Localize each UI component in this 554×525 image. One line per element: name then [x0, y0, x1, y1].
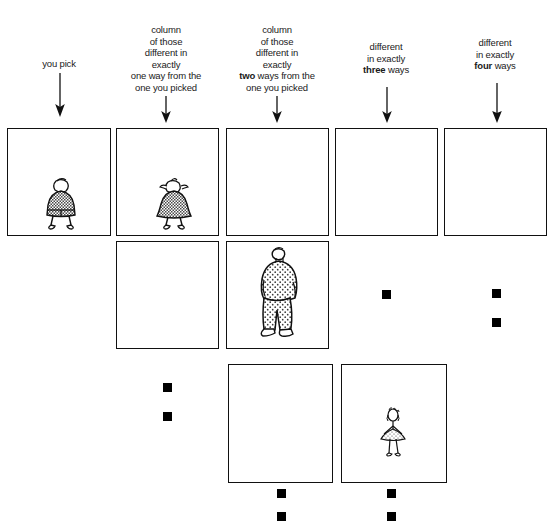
caption-line: one you picked [222, 82, 332, 94]
marker-square-r4c3-1 [277, 489, 286, 498]
grid-cell-r3c3[interactable] [228, 364, 333, 483]
caption-line: exactly [112, 59, 220, 71]
caption-line: exactly [222, 59, 332, 71]
down-arrow-icon-col-3 [269, 96, 285, 128]
marker-square-r3c2-1 [163, 383, 172, 392]
column-caption-1: you pick [7, 58, 111, 70]
caption-line: you pick [7, 58, 111, 70]
caption-line: different [333, 41, 439, 53]
marker-square-r4c4-2 [387, 512, 396, 521]
grid-cell-r1c3[interactable] [226, 128, 329, 236]
caption-line: column [222, 24, 332, 36]
figure-thin-figure-skirt [375, 407, 411, 463]
marker-square-r4c3-2 [277, 512, 286, 521]
grid-cell-r1c4[interactable] [335, 128, 438, 236]
caption-line: of those [112, 36, 220, 48]
down-arrow-icon-col-4 [379, 87, 395, 128]
column-caption-2: column of those different in exactly one… [112, 24, 220, 93]
caption-line: different in [112, 47, 220, 59]
figure-stout-figure-skirt-pigtails [150, 178, 198, 234]
caption-line: in exactly [333, 53, 439, 65]
marker-square-r4c4-1 [387, 489, 396, 498]
column-caption-3: column of those different in exactly two… [222, 24, 332, 93]
caption-line: different in [222, 47, 332, 59]
marker-square-r3c2-2 [163, 412, 172, 421]
marker-square-r2c5-2 [492, 318, 501, 327]
caption-line: one way from the [112, 70, 220, 82]
caption-line-emphasis: four ways [442, 60, 548, 72]
figure-stout-figure-shorts [40, 178, 84, 234]
caption-line: different [442, 37, 548, 49]
marker-square-r2c4-1 [382, 290, 391, 299]
grid-cell-r1c5[interactable] [444, 128, 547, 236]
figure-tall-figure-stippled [254, 246, 306, 344]
marker-square-r2c5-1 [492, 289, 501, 298]
column-caption-5: different in exactly four ways [442, 37, 548, 72]
caption-line-emphasis: three ways [333, 64, 439, 76]
illustration-canvas: you pick column of those different in ex… [0, 0, 554, 525]
down-arrow-icon-col-1 [52, 73, 68, 122]
caption-line: column [112, 24, 220, 36]
down-arrow-icon-col-2 [158, 96, 174, 128]
column-caption-4: different in exactly three ways [333, 41, 439, 76]
caption-line-emphasis: two ways from the [222, 70, 332, 82]
caption-line: one you picked [112, 82, 220, 94]
grid-cell-r2c2[interactable] [116, 241, 219, 349]
caption-line: of those [222, 36, 332, 48]
down-arrow-icon-col-5 [489, 83, 505, 128]
caption-line: in exactly [442, 49, 548, 61]
